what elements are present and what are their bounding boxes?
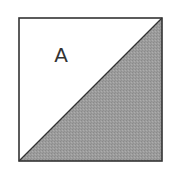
region-label: A	[54, 43, 68, 67]
diagram-canvas: A	[0, 0, 171, 170]
square-diagram: A	[0, 0, 171, 170]
